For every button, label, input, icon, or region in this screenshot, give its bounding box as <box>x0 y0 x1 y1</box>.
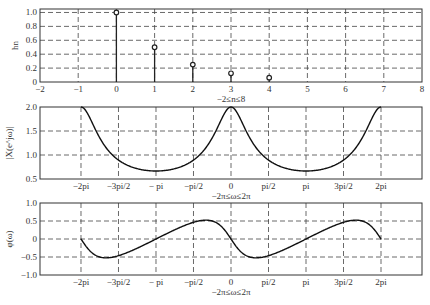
y-tick-label: 2.0 <box>26 102 38 112</box>
subplot-3: −2pi−3pi/2− pi−pi/20pi/2pi3pi/22pi−1.0−0… <box>4 198 422 297</box>
y-tick-label: 1.0 <box>26 7 38 17</box>
x-tick-label: pi/2 <box>261 277 275 287</box>
x-tick-label: pi/2 <box>261 181 275 191</box>
x-tick-label: −pi/2 <box>184 181 203 191</box>
x-axis-label: −2π≤ω≤2π <box>212 287 251 297</box>
stem-marker <box>267 75 272 80</box>
stem-marker <box>114 10 119 15</box>
x-tick-label: pi <box>302 181 310 191</box>
y-tick-label: −1.0 <box>21 270 38 280</box>
subplot-1: −2−101234567800.20.40.60.81.0−2≤n≤8hn <box>10 7 425 104</box>
y-tick-label: 0.6 <box>26 35 38 45</box>
x-tick-label: 3 <box>229 84 234 94</box>
x-tick-label: − pi <box>149 277 164 287</box>
y-tick-label: 0.4 <box>26 49 38 59</box>
x-tick-label: pi <box>302 277 310 287</box>
x-tick-label: 3pi/2 <box>334 181 353 191</box>
x-tick-label: 2pi <box>375 277 387 287</box>
y-tick-label: 0.8 <box>26 21 38 31</box>
y-tick-label: 0 <box>33 234 38 244</box>
x-tick-label: −2pi <box>73 277 90 287</box>
x-tick-label: − pi <box>149 181 164 191</box>
stem-marker <box>229 71 234 76</box>
grid <box>40 107 422 179</box>
x-tick-label: −2pi <box>73 181 90 191</box>
y-tick-label: 1.0 <box>26 150 38 160</box>
y-tick-label: 0.5 <box>26 174 38 184</box>
x-tick-label: 0 <box>229 181 234 191</box>
y-tick-label: 0 <box>33 77 38 87</box>
x-tick-label: 4 <box>267 84 272 94</box>
figure: −2−101234567800.20.40.60.81.0−2≤n≤8hn−2p… <box>0 0 430 305</box>
x-tick-label: −3pi/2 <box>107 277 131 287</box>
x-tick-label: 0 <box>229 277 234 287</box>
y-axis-label: φ(ω) <box>4 230 14 247</box>
y-tick-label: 0.2 <box>26 63 37 73</box>
x-axis-label: −2≤n≤8 <box>217 94 246 104</box>
stem-marker <box>152 45 157 50</box>
y-tick-label: 0.5 <box>26 216 38 226</box>
x-tick-label: 2 <box>191 84 196 94</box>
x-tick-label: 8 <box>420 84 425 94</box>
stem-marker <box>191 62 196 67</box>
x-tick-label: 6 <box>343 84 348 94</box>
x-tick-label: 0 <box>114 84 119 94</box>
x-tick-label: −1 <box>73 84 83 94</box>
x-tick-label: −pi/2 <box>184 277 203 287</box>
x-tick-label: 2pi <box>375 181 387 191</box>
subplot-2: −2pi−3pi/2− pi−pi/20pi/2pi3pi/22pi0.51.0… <box>4 102 422 201</box>
x-tick-label: 1 <box>152 84 157 94</box>
x-tick-label: 5 <box>305 84 310 94</box>
x-axis-label: −2π≤ω≤2π <box>212 191 251 201</box>
x-tick-label: 3pi/2 <box>334 277 353 287</box>
x-tick-label: 7 <box>382 84 387 94</box>
y-tick-label: −0.5 <box>21 252 38 262</box>
x-tick-label: −3pi/2 <box>107 181 131 191</box>
y-axis-label: hn <box>10 41 20 51</box>
y-axis-label: |X(e^jω)| <box>4 126 14 159</box>
y-tick-label: 1.0 <box>26 198 38 208</box>
y-tick-label: 1.5 <box>26 126 38 136</box>
